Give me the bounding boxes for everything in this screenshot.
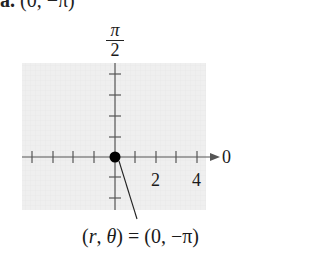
point-label: (r, θ) = (0, −π) <box>82 225 199 248</box>
vertical-axis-label: π 2 <box>104 22 126 59</box>
pi-denominator: 2 <box>111 40 120 60</box>
arrow-icon <box>210 153 220 161</box>
comma: , <box>96 225 106 247</box>
point-value: ) = (0, −π) <box>116 225 199 247</box>
polar-axis-label: 0 <box>222 147 231 168</box>
theta-symbol: θ <box>106 225 116 247</box>
pi-numerator: π <box>110 20 119 40</box>
tick-label-4: 4 <box>192 170 201 191</box>
pole-point <box>110 152 121 163</box>
tick-label-2: 2 <box>151 170 160 191</box>
paren-open: ( <box>82 225 89 247</box>
